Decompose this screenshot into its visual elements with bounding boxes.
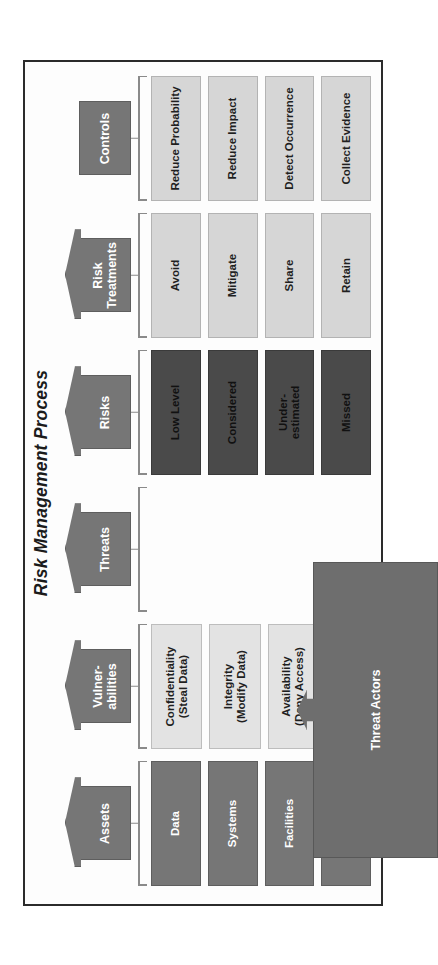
item-treatment-retain[interactable]: Retain <box>321 213 371 338</box>
header-controls-label: Controls <box>98 112 112 163</box>
item-risk-missed[interactable]: Missed <box>321 350 371 475</box>
vulnerabilities-header-wrap: Vulner- abilities <box>65 618 131 755</box>
bracket-controls <box>131 70 147 207</box>
item-risk-underestimated[interactable]: Under- estimated <box>264 350 314 475</box>
controls-header-wrap: Controls <box>65 70 131 207</box>
item-treatment-avoid[interactable]: Avoid <box>151 213 201 338</box>
bracket-tick-left <box>138 747 147 749</box>
threat-actors-band[interactable]: Threat Actors <box>313 562 438 858</box>
header-risk-treatments-label: Risk Treatments <box>91 239 119 311</box>
bracket-tick-right <box>138 761 147 763</box>
bracket-risks <box>131 344 147 481</box>
header-risks-label: Risks <box>98 395 112 428</box>
header-threats[interactable]: Threats <box>79 512 131 586</box>
bracket-tick-left <box>138 473 147 475</box>
bracket-tick-left <box>138 884 147 886</box>
item-control-collect-evidence[interactable]: Collect Evidence <box>321 76 371 201</box>
bracket-tick-right <box>138 76 147 78</box>
header-risks[interactable]: Risks <box>79 375 131 449</box>
item-treatment-mitigate[interactable]: Mitigate <box>207 213 257 338</box>
risk-treatments-header-wrap: Risk Treatments <box>65 207 131 344</box>
bracket-bar <box>138 213 140 338</box>
bracket-bar <box>138 761 140 886</box>
rotated-figure-wrapper: Risk Management Process Assets Data <box>23 60 383 906</box>
header-vulnerabilities-label: Vulner- abilities <box>91 650 119 722</box>
header-threats-label: Threats <box>98 526 112 571</box>
header-assets-label: Assets <box>98 803 112 844</box>
bracket-tick-right <box>138 624 147 626</box>
item-assets-systems[interactable]: Systems <box>207 761 257 886</box>
item-treatment-share[interactable]: Share <box>264 213 314 338</box>
column-risk-treatments: Risk Treatments Avoid Mitigate Share Ret… <box>65 207 373 344</box>
item-risk-considered[interactable]: Considered <box>207 350 257 475</box>
bracket-tick-right <box>138 487 147 489</box>
threats-header-wrap: Threats <box>65 481 131 618</box>
header-vulnerabilities[interactable]: Vulner- abilities <box>79 649 131 723</box>
item-control-reduce-probability[interactable]: Reduce Probability <box>151 76 201 201</box>
bracket-tick-right <box>138 213 147 215</box>
bracket-risk-treatments <box>131 207 147 344</box>
bracket-tick-left <box>138 610 147 612</box>
item-cia-integrity[interactable]: Integrity (Modify Data) <box>209 624 260 749</box>
bracket-bar <box>138 487 140 612</box>
risks-header-wrap: Risks <box>65 344 131 481</box>
item-control-detect-occurrence[interactable]: Detect Occurrence <box>264 76 314 201</box>
bracket-bar <box>138 350 140 475</box>
header-controls[interactable]: Controls <box>79 101 131 175</box>
header-risk-treatments[interactable]: Risk Treatments <box>79 238 131 312</box>
items-risk-treatments: Avoid Mitigate Share Retain <box>147 207 373 344</box>
item-control-reduce-impact[interactable]: Reduce Impact <box>207 76 257 201</box>
threat-actors-label: Threat Actors <box>368 669 382 750</box>
item-assets-facilities[interactable]: Facilities <box>264 761 314 886</box>
header-assets[interactable]: Assets <box>79 786 131 860</box>
items-risks: Low Level Considered Under- estimated Mi… <box>147 344 373 481</box>
bracket-assets <box>131 755 147 892</box>
assets-header-wrap: Assets <box>65 755 131 892</box>
bracket-tick-right <box>138 350 147 352</box>
items-controls: Reduce Probability Reduce Impact Detect … <box>147 70 373 207</box>
bracket-tick-left <box>138 336 147 338</box>
item-assets-data[interactable]: Data <box>151 761 201 886</box>
page-title: Risk Management Process <box>31 60 52 906</box>
bracket-tick-left <box>138 199 147 201</box>
bracket-bar <box>138 76 140 201</box>
bracket-threats <box>131 481 147 618</box>
bracket-vulnerabilities <box>131 618 147 755</box>
item-cia-confidentiality[interactable]: Confidentiality (Steal Data) <box>151 624 202 749</box>
column-risks: Risks Low Level Considered Under- estima… <box>65 344 373 481</box>
item-risk-low-level[interactable]: Low Level <box>151 350 201 475</box>
item-cia-availability[interactable]: Availability (Deny Access) <box>267 624 318 749</box>
bracket-bar <box>138 624 140 749</box>
column-controls: Controls Reduce Probability Reduce Impac… <box>65 70 373 207</box>
